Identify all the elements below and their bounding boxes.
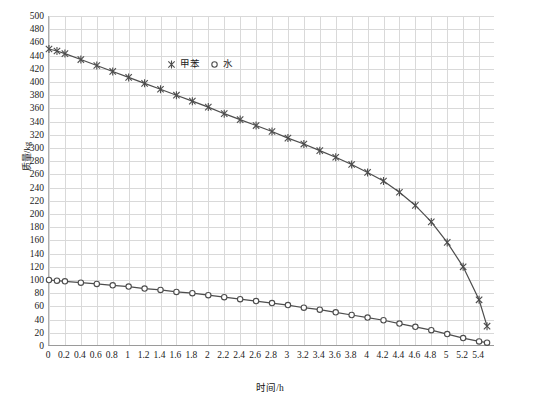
y-axis-tick-label: 420 — [30, 64, 44, 74]
x-axis-tick-label: 0 — [46, 350, 51, 361]
legend-label: 水 — [223, 59, 233, 70]
x-axis-tick-label: 0.2 — [58, 350, 70, 361]
y-axis-tick-label: 120 — [30, 262, 44, 272]
series-2 — [46, 277, 489, 345]
y-axis-tick-label: 180 — [30, 222, 44, 232]
x-axis-tick-label: 3.2 — [297, 350, 309, 361]
x-axis-tick-label: 1 — [125, 350, 130, 361]
y-axis-tick-label: 380 — [30, 90, 44, 100]
legend-entry-2: 水 — [209, 59, 233, 70]
x-axis-tick-label: 3.4 — [313, 350, 325, 361]
y-axis-tick-label: 400 — [30, 77, 44, 87]
y-axis-tick-label: 40 — [35, 315, 45, 325]
x-axis-tick-label: 4 — [364, 350, 369, 361]
y-axis-tick-label: 280 — [30, 156, 44, 166]
y-axis-tick-label: 200 — [30, 209, 44, 219]
x-axis-tick-label: 5 — [444, 350, 449, 361]
y-axis-tick-label: 220 — [30, 196, 44, 206]
y-axis-tick-label: 60 — [35, 301, 45, 311]
y-axis-tick-label: 320 — [30, 130, 44, 140]
chart-container: 质量/kg 0204060801001201401601802002202402… — [0, 0, 540, 405]
x-axis-tick-label: 0.8 — [106, 350, 118, 361]
y-axis-tick-label: 480 — [30, 24, 44, 34]
y-axis-tick-label: 300 — [30, 143, 44, 153]
y-axis-tick-label: 240 — [30, 183, 44, 193]
plot-area — [48, 16, 494, 346]
x-axis-title: 时间/h — [0, 380, 540, 394]
x-axis-tick-label: 3.8 — [345, 350, 357, 361]
chart-legend: 甲苯水 — [166, 59, 233, 70]
data-lines — [49, 16, 494, 345]
circle-marker-icon — [209, 59, 220, 70]
y-axis-tick-labels: 0204060801001201401601802002202402602803… — [0, 0, 44, 405]
x-axis-tick-label: 0.6 — [90, 350, 102, 361]
x-axis-tick-label: 0.4 — [74, 350, 86, 361]
y-axis-tick-label: 140 — [30, 249, 44, 259]
y-axis-tick-label: 160 — [30, 235, 44, 245]
series-svg — [49, 16, 495, 346]
y-axis-tick-label: 100 — [30, 275, 44, 285]
x-axis-tick-label: 2 — [205, 350, 210, 361]
x-axis-tick-label: 1.6 — [169, 350, 181, 361]
x-axis-tick-labels: 00.20.40.60.811.21.41.61.822.22.42.62.83… — [0, 350, 540, 366]
y-axis-tick-label: 80 — [35, 288, 45, 298]
x-axis-tick-label: 3 — [285, 350, 290, 361]
y-axis-tick-label: 360 — [30, 103, 44, 113]
x-axis-tick-label: 4.2 — [377, 350, 389, 361]
x-axis-tick-label: 1.4 — [154, 350, 166, 361]
y-axis-tick-label: 460 — [30, 37, 44, 47]
y-axis-tick-label: 440 — [30, 51, 44, 61]
cross-marker-icon — [166, 59, 177, 70]
series-line — [49, 280, 487, 343]
legend-label: 甲苯 — [180, 59, 200, 70]
x-axis-tick-label: 2.6 — [249, 350, 261, 361]
y-axis-tick-label: 20 — [35, 328, 45, 338]
legend-entry-1: 甲苯 — [166, 59, 200, 70]
x-axis-tick-label: 1.2 — [138, 350, 150, 361]
x-axis-tick-label: 2.4 — [233, 350, 245, 361]
x-axis-tick-label: 4.8 — [424, 350, 436, 361]
x-axis-tick-label: 5.4 — [472, 350, 484, 361]
x-axis-tick-label: 2.8 — [265, 350, 277, 361]
x-axis-tick-label: 4.6 — [408, 350, 420, 361]
x-axis-tick-label: 3.6 — [329, 350, 341, 361]
y-axis-tick-label: 260 — [30, 169, 44, 179]
y-axis-tick-label: 340 — [30, 117, 44, 127]
y-axis-tick-label: 500 — [30, 11, 44, 21]
x-axis-tick-label: 1.8 — [185, 350, 197, 361]
x-axis-tick-label: 5.2 — [456, 350, 468, 361]
x-axis-tick-label: 2.2 — [217, 350, 229, 361]
x-axis-tick-label: 4.4 — [392, 350, 404, 361]
